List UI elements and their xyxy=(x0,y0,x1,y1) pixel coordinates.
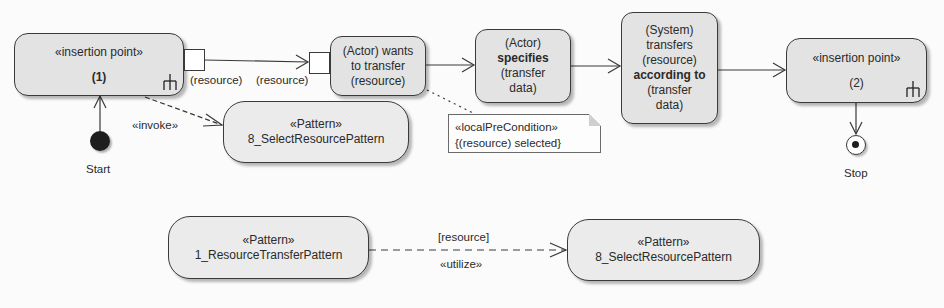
note-fold-corner xyxy=(589,114,601,126)
utilize-stereotype-label: «utilize» xyxy=(440,258,482,270)
action-line: (Actor) wants xyxy=(343,44,414,59)
input-pin-label: (resource) xyxy=(256,74,308,86)
action-line: to transfer xyxy=(351,59,405,74)
action-line: (transfer xyxy=(647,83,692,98)
invoke-label: «invoke» xyxy=(132,119,178,131)
action-line: (Actor) xyxy=(505,36,541,51)
action-line: specifies xyxy=(497,51,548,66)
insertion-point-1-node[interactable]: «insertion point» (1) xyxy=(14,33,184,96)
input-pin[interactable] xyxy=(309,52,330,74)
call-behavior-fork-icon xyxy=(906,81,920,97)
pattern-name: 8_SelectResourcePattern xyxy=(248,132,385,147)
note-stereotype: «localPreCondition» xyxy=(455,119,594,135)
activity-final-node-icon[interactable] xyxy=(846,135,866,155)
call-behavior-fork-icon xyxy=(163,74,177,90)
note-text: {(resource) selected} xyxy=(455,135,594,151)
precondition-note[interactable]: «localPreCondition» {(resource) selected… xyxy=(448,114,601,153)
action-line: according to xyxy=(633,68,705,83)
stop-label: Stop xyxy=(844,167,868,179)
actor-specifies-action[interactable]: (Actor) specifies (transfer data) xyxy=(475,29,571,103)
action-line: (resource) xyxy=(642,53,697,68)
pattern-stereotype: «Pattern» xyxy=(290,117,342,132)
action-line: transfers xyxy=(646,38,693,53)
insertion-point-number: (1) xyxy=(92,70,107,85)
pattern-stereotype: «Pattern» xyxy=(637,235,689,250)
action-line: (transfer xyxy=(501,66,546,81)
action-line: (resource) xyxy=(351,74,406,89)
initial-node-icon[interactable] xyxy=(90,131,110,151)
pattern-stereotype: «Pattern» xyxy=(242,233,294,248)
pattern-name: 8_SelectResourcePattern xyxy=(595,250,732,265)
pattern-select-resource-node[interactable]: «Pattern» 8_SelectResourcePattern xyxy=(223,101,409,163)
pattern-select-resource-bottom-node[interactable]: «Pattern» 8_SelectResourcePattern xyxy=(567,219,760,281)
object-flow-resource xyxy=(204,60,308,62)
utilize-guard-label: [resource] xyxy=(438,231,489,243)
output-pin[interactable] xyxy=(184,49,205,71)
insertion-point-number: (2) xyxy=(849,76,864,91)
final-dot xyxy=(852,141,859,148)
activity-diagram-canvas: «insertion point» (1) (resource) (resour… xyxy=(0,0,944,308)
output-pin-label: (resource) xyxy=(190,74,242,86)
insertion-point-stereotype: «insertion point» xyxy=(55,45,143,60)
action-line: data) xyxy=(656,98,683,113)
start-label: Start xyxy=(86,163,110,175)
pattern-resource-transfer-node[interactable]: «Pattern» 1_ResourceTransferPattern xyxy=(168,216,369,279)
action-line: (System) xyxy=(646,23,694,38)
system-transfers-action[interactable]: (System) transfers (resource) according … xyxy=(621,12,718,124)
actor-wants-to-transfer-action[interactable]: (Actor) wants to transfer (resource) xyxy=(330,36,426,96)
insertion-point-stereotype: «insertion point» xyxy=(812,51,900,66)
note-anchor xyxy=(427,90,475,114)
pattern-name: 1_ResourceTransferPattern xyxy=(195,248,343,263)
action-line: data) xyxy=(509,81,536,96)
insertion-point-2-node[interactable]: «insertion point» (2) xyxy=(786,38,927,103)
